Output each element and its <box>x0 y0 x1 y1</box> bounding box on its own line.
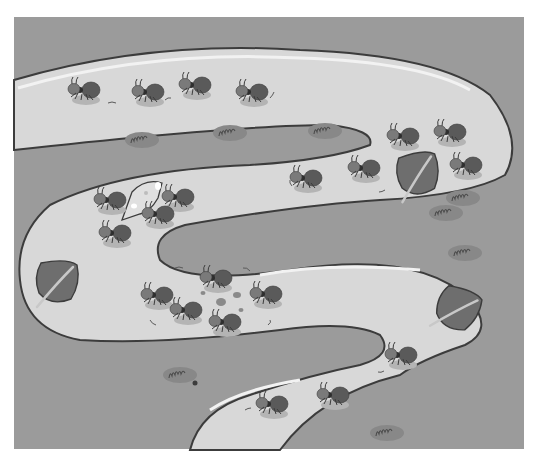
grass-tuft <box>370 425 404 441</box>
small-bug <box>193 381 198 386</box>
grass-tuft <box>308 123 342 139</box>
grass-tuft <box>213 125 247 141</box>
grass-tuft <box>163 367 197 383</box>
grass-tuft <box>446 190 480 206</box>
grass-tuft <box>448 245 482 261</box>
grass-tuft <box>429 205 463 221</box>
grass-tuft <box>125 132 159 148</box>
ant-trail-illustration <box>0 0 537 463</box>
